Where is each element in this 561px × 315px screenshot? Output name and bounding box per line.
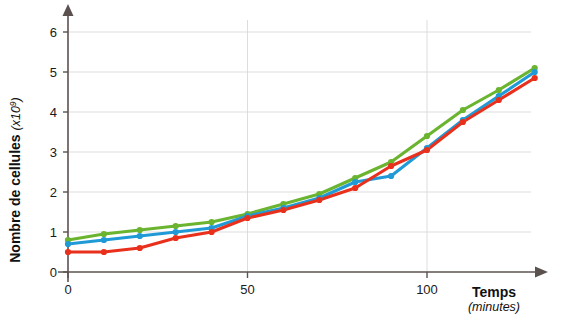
y-tick-label: 3 bbox=[50, 145, 57, 160]
y-tick-label: 4 bbox=[50, 105, 57, 120]
series-line-green bbox=[68, 68, 535, 240]
series-line-red bbox=[68, 78, 535, 252]
y-tick-label: 5 bbox=[50, 65, 57, 80]
series-line-blue bbox=[68, 72, 535, 244]
data-point-red bbox=[496, 97, 502, 103]
data-point-red bbox=[173, 235, 179, 241]
data-point-red bbox=[65, 249, 71, 255]
data-point-green bbox=[496, 87, 502, 93]
y-tick-label: 0 bbox=[50, 265, 57, 280]
data-point-red bbox=[460, 119, 466, 125]
x-tick-label: 50 bbox=[240, 282, 254, 297]
y-tick-label: 2 bbox=[50, 185, 57, 200]
y-tick-label: 6 bbox=[50, 25, 57, 40]
x-axis-title-unit: (minutes) bbox=[468, 300, 520, 314]
data-point-green bbox=[137, 227, 143, 233]
data-point-red bbox=[244, 215, 250, 221]
data-point-blue bbox=[101, 237, 107, 243]
data-point-red bbox=[532, 75, 538, 81]
data-point-red bbox=[137, 245, 143, 251]
data-point-green bbox=[424, 133, 430, 139]
data-point-red bbox=[424, 147, 430, 153]
data-point-red bbox=[280, 207, 286, 213]
cell-growth-chart: 0123456050100Nombre de cellules (x109)Te… bbox=[0, 0, 561, 315]
data-point-blue bbox=[137, 233, 143, 239]
data-point-blue bbox=[352, 179, 358, 185]
data-point-red bbox=[209, 229, 215, 235]
x-axis-arrow-icon bbox=[535, 267, 548, 278]
data-point-red bbox=[316, 197, 322, 203]
data-point-green bbox=[209, 219, 215, 225]
x-tick-label: 0 bbox=[64, 282, 71, 297]
data-point-blue bbox=[388, 173, 394, 179]
data-point-red bbox=[352, 185, 358, 191]
y-tick-label: 1 bbox=[50, 225, 57, 240]
data-point-red bbox=[388, 163, 394, 169]
data-point-blue bbox=[65, 241, 71, 247]
data-point-blue bbox=[173, 229, 179, 235]
x-axis-title: Temps bbox=[472, 284, 516, 300]
data-point-green bbox=[460, 107, 466, 113]
data-point-blue bbox=[532, 69, 538, 75]
y-axis-title-unit: (x10 bbox=[9, 106, 23, 130]
data-point-red bbox=[101, 249, 107, 255]
y-axis-title: Nombre de cellules (x109) bbox=[7, 97, 23, 263]
y-axis-arrow-icon bbox=[63, 4, 74, 16]
data-point-green bbox=[173, 223, 179, 229]
chart-canvas: 0123456050100Nombre de cellules (x109)Te… bbox=[0, 0, 561, 315]
data-point-green bbox=[101, 231, 107, 237]
x-tick-label: 100 bbox=[416, 282, 438, 297]
y-axis-title-main: Nombre de cellules bbox=[7, 130, 23, 262]
